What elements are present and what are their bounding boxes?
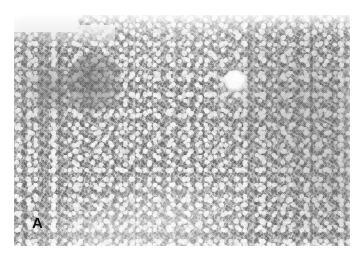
sinusoidal-lacunae-layer [14,15,350,246]
histology-micrograph: A [14,15,350,246]
portal-tract-region [68,54,122,114]
blank-corner-feather [14,25,115,46]
film-grain-layer [14,15,350,246]
plate-edge-vignette [14,15,350,246]
portal-tract-region-secondary [31,66,75,112]
panel-label: A [32,215,43,230]
tissue-cords-layer [14,15,350,246]
regional-tone-layer [14,15,350,246]
figure-root: A [0,0,360,254]
cellular-stipple-layer [14,15,350,246]
